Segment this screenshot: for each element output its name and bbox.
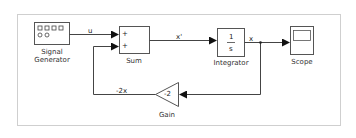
scope-block[interactable] <box>291 27 314 55</box>
scope-label: Scope <box>287 58 317 66</box>
integrator-numerator: 1 <box>229 33 233 41</box>
signal-label-minus-2x: -2x <box>116 87 127 95</box>
signal-generator-label-1: Signal <box>32 48 72 56</box>
branch-point <box>259 41 262 44</box>
signal-label-u: u <box>88 27 92 35</box>
sum-port-plus-1: + <box>122 30 128 38</box>
integrator-label: Integrator <box>206 59 256 67</box>
gain-label: Gain <box>152 111 182 119</box>
sum-port-plus-2: + <box>122 42 128 50</box>
signal-generator-block[interactable] <box>35 23 70 45</box>
signal-label-x-dot: x' <box>176 33 182 41</box>
gain-value: -2 <box>164 90 171 98</box>
diagram-canvas: Signal Generator + + Sum 1 s Integrator … <box>0 0 356 138</box>
signal-generator-label-2: Generator <box>27 56 77 64</box>
scope-screen-icon <box>294 31 311 41</box>
integrator-denominator: s <box>229 45 233 53</box>
sum-label: Sum <box>119 57 149 65</box>
signal-label-x: x <box>249 35 253 43</box>
